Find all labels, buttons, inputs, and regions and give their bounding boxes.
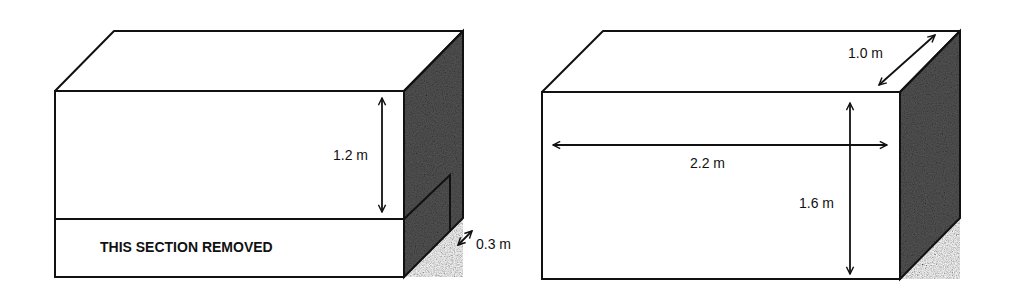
label-2-2m: 2.2 m [690, 155, 725, 171]
label-0-3m: 0.3 m [476, 236, 511, 252]
label-1-6m: 1.6 m [799, 195, 834, 211]
label-section-removed: THIS SECTION REMOVED [100, 239, 273, 255]
right-box-front-face [542, 92, 900, 279]
right-box-top-face [542, 31, 960, 92]
right-box: 1.0 m 2.2 m 1.6 m [542, 31, 960, 279]
thickness-arrow-0-3m [458, 231, 472, 245]
left-box-top-face [55, 31, 463, 91]
diagram-canvas: 1.2 m THIS SECTION REMOVED 0.3 m 1.0 m 2… [0, 0, 1016, 299]
label-1-0m: 1.0 m [848, 45, 883, 61]
label-1-2m: 1.2 m [333, 147, 368, 163]
left-box: 1.2 m THIS SECTION REMOVED 0.3 m [55, 31, 511, 277]
